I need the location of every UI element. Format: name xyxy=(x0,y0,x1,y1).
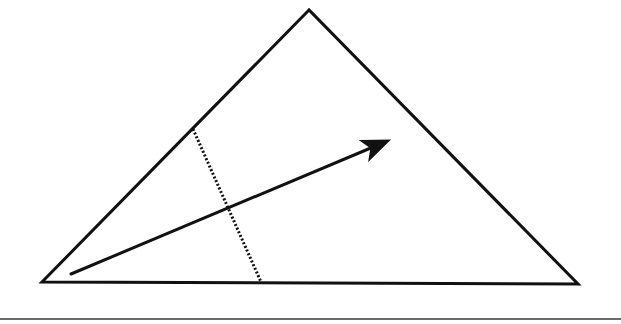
dotted-perpendicular-segment xyxy=(193,129,261,282)
triangle-diagram xyxy=(0,0,621,324)
arrow-vector xyxy=(71,142,386,274)
triangle-shape xyxy=(42,10,578,284)
bottom-divider-rule xyxy=(0,318,621,320)
